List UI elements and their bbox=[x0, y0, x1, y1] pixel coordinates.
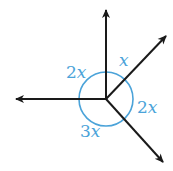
angle-label-top: x bbox=[119, 50, 129, 70]
angle-label-upper-left: 2x bbox=[66, 62, 87, 82]
angle-label-bottom: 3x bbox=[80, 121, 101, 141]
angle-label-right: 2x bbox=[137, 97, 158, 117]
angle-diagram: 2x x 2x 3x bbox=[0, 0, 173, 171]
ray-up-right bbox=[106, 36, 166, 99]
